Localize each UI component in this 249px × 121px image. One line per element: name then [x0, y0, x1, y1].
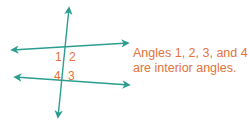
angle-label-4: 4 [54, 70, 61, 82]
angle-label-3: 3 [68, 70, 75, 82]
caption-line-1: Angles 1, 2, 3, and 4 [133, 46, 248, 61]
caption-line-2: are interior angles. [133, 61, 248, 76]
top-line [12, 43, 128, 50]
angle-label-1: 1 [55, 51, 62, 63]
angle-label-2: 2 [69, 51, 76, 63]
caption: Angles 1, 2, 3, and 4 are interior angle… [133, 46, 248, 76]
